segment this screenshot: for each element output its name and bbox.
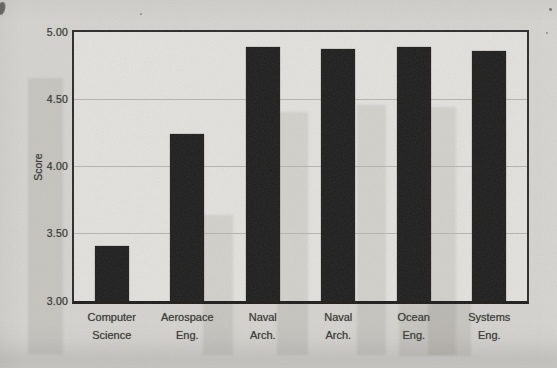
x-category-label-line: Naval: [296, 309, 380, 327]
y-tick-label: 5.00: [28, 26, 68, 38]
scan-speck: [549, 8, 552, 11]
x-category-label-line: Computer: [70, 309, 154, 327]
x-category-label-line: Systems: [447, 309, 531, 327]
y-tick-label: 4.50: [28, 93, 68, 105]
scan-bottom-shading: [0, 338, 557, 368]
x-category-label-line: Aerospace: [145, 309, 229, 327]
scanned-bar-chart-page: 5.004.504.003.503.00 Score ComputerScien…: [0, 0, 557, 368]
scan-speck: [140, 13, 142, 15]
y-tick-label: 3.50: [28, 227, 68, 239]
x-category-label-line: Ocean: [372, 309, 456, 327]
x-category-label-line: Naval: [221, 309, 305, 327]
scan-ghost-band: [28, 78, 63, 354]
y-axis-title: Score: [32, 153, 44, 180]
plot-frame: [72, 30, 529, 304]
scan-smudge: [0, 1, 6, 15]
scan-speck: [546, 32, 548, 34]
y-tick-label: 3.00: [28, 295, 68, 307]
